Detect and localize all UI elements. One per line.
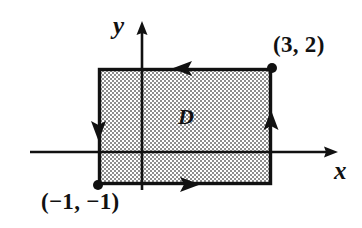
vertex-label-bottom-left: (−1, −1): [41, 190, 119, 213]
region-d-label: D: [178, 106, 194, 128]
y-axis-label: y: [113, 13, 124, 38]
x-axis-label: x: [334, 158, 347, 183]
vertex-dot-top-right: [267, 63, 277, 73]
vertex-label-top-right: (3, 2): [273, 33, 325, 56]
